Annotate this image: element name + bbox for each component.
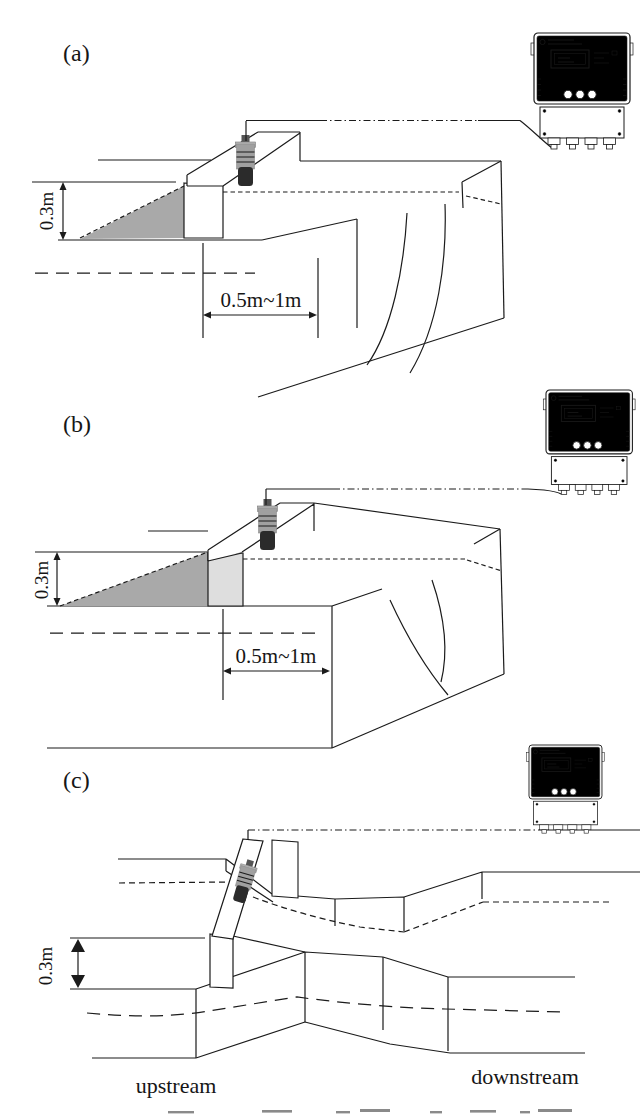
height-label: 0.3m (36, 192, 57, 231)
figure-canvas: (a) (0, 0, 640, 1116)
flume-far-wall (118, 859, 640, 931)
nappe-streamline (410, 204, 445, 373)
nappe-streamline (432, 580, 445, 682)
panel-c-label: (c) (63, 767, 90, 793)
lower-channel-edge (332, 674, 504, 748)
weir-brink (262, 219, 357, 240)
flow-meter-controller-icon (531, 33, 633, 149)
height-dimension-c: 0.3m (35, 938, 205, 988)
flow-meter-controller-icon (527, 745, 605, 833)
weir-plate (184, 183, 223, 238)
distance-dimension-a: 0.5m~1m (203, 243, 318, 338)
flow-meter-controller-icon (543, 390, 635, 494)
panel-a-label: (a) (63, 40, 90, 66)
weir-brink (332, 589, 382, 606)
flume-near-structure (70, 936, 585, 1058)
hidden-floor-line (87, 997, 565, 1016)
ultrasonic-level-sensor-icon (236, 135, 256, 186)
caption-fragment (168, 1109, 572, 1113)
panel-b: (b) (31, 390, 635, 748)
height-label: 0.3m (35, 947, 56, 986)
mounting-post (272, 840, 298, 898)
water-surface-and-nappe (243, 559, 491, 704)
height-label: 0.3m (31, 561, 52, 600)
figure-page: (a) (0, 0, 640, 1116)
sensor-cable (248, 830, 640, 840)
panel-c: (c) (35, 745, 640, 1098)
downstream-label: downstream (471, 1064, 579, 1089)
nappe-gap (390, 600, 448, 695)
panel-b-label: (b) (63, 411, 91, 437)
upstream-label: upstream (136, 1073, 217, 1098)
ultrasonic-level-sensor-icon (258, 499, 278, 550)
distance-label: 0.5m~1m (221, 288, 302, 312)
distance-label: 0.5m~1m (236, 644, 317, 668)
channel-structure-a (35, 160, 504, 397)
lower-channel-edge (258, 318, 504, 397)
panel-a: (a) (32, 33, 633, 397)
nappe-streamline (367, 213, 407, 365)
water-surface-and-nappe (223, 192, 473, 377)
distance-dimension-b: 0.5m~1m (223, 609, 330, 700)
water-line-dashes-c (119, 882, 612, 932)
flume-wall-panel (210, 934, 233, 988)
flume-water (102, 882, 612, 987)
